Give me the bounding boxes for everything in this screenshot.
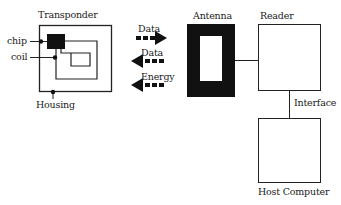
reader-label: Reader — [260, 11, 293, 21]
host-computer-box — [259, 119, 321, 183]
chip-block — [47, 34, 65, 49]
host-computer-label: Host Computer — [258, 187, 329, 197]
reader-box — [259, 25, 321, 91]
chip-label: chip — [7, 36, 27, 46]
interface-label: Interface — [294, 98, 336, 108]
coil-label: coil — [11, 52, 27, 62]
arrow-label-data-2: Data — [141, 48, 163, 58]
arrow-label-energy: Energy — [141, 72, 174, 82]
housing-label: Housing — [36, 100, 75, 110]
arrow-label-data-1: Data — [138, 24, 160, 34]
coil-inner — [61, 48, 90, 66]
antenna-label: Antenna — [193, 11, 232, 21]
transponder-title: Transponder — [38, 10, 98, 20]
